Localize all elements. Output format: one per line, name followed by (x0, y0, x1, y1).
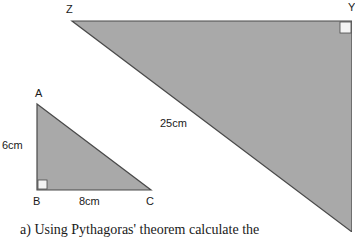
side-label-bc: 8cm (79, 196, 100, 207)
side-label-ab: 6cm (2, 140, 23, 151)
vertex-label-c: C (146, 196, 154, 207)
vertex-label-z: Z (66, 4, 73, 15)
large-triangle (72, 21, 352, 232)
right-angle-marker-y (340, 22, 351, 33)
small-triangle (37, 104, 151, 190)
hypotenuse-label-zx: 25cm (160, 118, 187, 129)
question-text: a) Using Pythagoras' theorem calculate t… (20, 223, 259, 237)
vertex-label-a: A (35, 88, 42, 99)
vertex-label-b: B (33, 196, 40, 207)
right-angle-marker-b (38, 180, 47, 189)
vertex-label-y: Y (348, 2, 355, 13)
